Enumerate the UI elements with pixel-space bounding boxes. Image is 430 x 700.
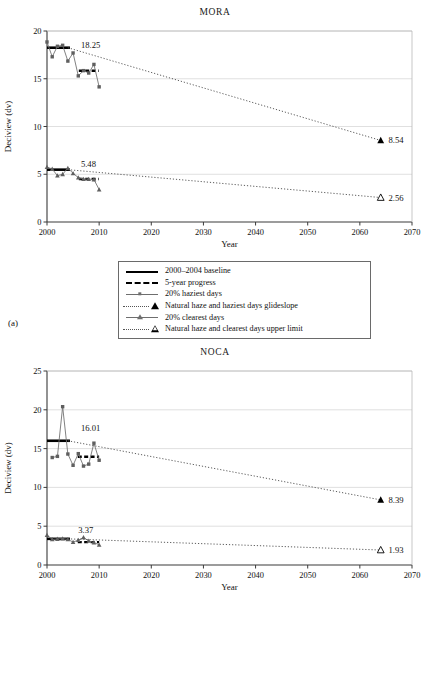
legend-mora: 2000–2004 baseline5-year progress20% haz… <box>118 261 371 339</box>
chart-svg-mora: 0510152020002010202020302040205020602070… <box>0 17 430 262</box>
y-axis-tick-label: 10 <box>33 123 41 132</box>
clearest-days-marker <box>76 538 81 542</box>
value-annotation: 18.25 <box>81 40 100 50</box>
haziest-days-marker <box>71 464 74 467</box>
clearest-days-marker <box>81 535 86 539</box>
haziest-days-marker <box>51 456 54 459</box>
y-axis-tick-label: 5 <box>37 170 41 179</box>
legend-label: 20% haziest days <box>164 289 222 298</box>
upper-limit-endpoint-open-triangle-icon <box>377 194 384 200</box>
x-axis-tick-label: 2010 <box>91 228 108 237</box>
triangle-marker-icon <box>137 314 143 319</box>
y-axis-tick-label: 0 <box>37 561 41 570</box>
legend-label: 2000–2004 baseline <box>164 266 231 275</box>
legend-item-solid-line: 2000–2004 baseline <box>123 265 365 277</box>
x-axis-tick-label: 2030 <box>195 228 212 237</box>
haziest-days-marker <box>66 452 69 455</box>
y-axis-tick-label: 15 <box>33 75 41 84</box>
clearest-days-marker <box>45 165 50 169</box>
x-axis-tick-label: 2040 <box>247 228 264 237</box>
haziest-days-marker <box>45 40 48 43</box>
chart-title-noca: NOCA <box>0 340 430 357</box>
panel-label-a: (a) <box>8 318 18 328</box>
value-annotation: 2.56 <box>389 193 405 203</box>
x-axis-tick-label: 2060 <box>351 228 368 237</box>
clearest-days-marker <box>45 533 50 537</box>
y-axis-title: Deciview (dv) <box>3 442 13 494</box>
haziest-days-marker <box>87 462 90 465</box>
haziest-days-marker <box>71 51 74 54</box>
glideslope-line <box>68 441 381 500</box>
x-axis-title: Year <box>221 239 238 249</box>
open-triangle-icon <box>151 325 159 332</box>
value-annotation: 8.54 <box>389 135 405 145</box>
plot-area-mora: 0510152020002010202020302040205020602070… <box>0 17 430 262</box>
value-annotation: 1.93 <box>389 545 404 555</box>
legend-item-dotted-open-triangle: Natural haze and clearest days upper lim… <box>123 323 365 335</box>
haziest-days-marker <box>77 74 80 77</box>
legend-key-dotted-open-triangle-icon <box>123 323 161 334</box>
figure-panel-b: NOCA 05101520252000201020202030204020502… <box>0 340 430 700</box>
x-axis-tick-label: 2050 <box>299 228 316 237</box>
legend-label: 5-year progress <box>164 278 216 287</box>
y-axis-tick-label: 20 <box>33 27 41 36</box>
legend-item-dotted-filled-triangle: Natural haze and haziest days glideslope <box>123 300 365 312</box>
chart-svg-noca: 0510152025200020102020203020402050206020… <box>0 357 430 607</box>
figure-panel-a: MORA 05101520200020102020203020402050206… <box>0 0 430 340</box>
haziest-days-marker <box>97 459 100 462</box>
legend-key-square-marker-line-icon <box>123 288 161 299</box>
glideslope-line <box>68 170 381 198</box>
legend-item-triangle-marker-line: 20% clearest days <box>123 311 365 323</box>
haziest-days-marker <box>92 441 95 444</box>
value-annotation: 8.39 <box>389 495 404 505</box>
square-marker-icon <box>138 292 141 295</box>
glideslope-line <box>68 539 381 550</box>
x-axis-tick-label: 2050 <box>299 571 316 580</box>
x-axis-tick-label: 2000 <box>39 571 56 580</box>
value-annotation: 3.37 <box>78 525 94 535</box>
haziest-days-marker <box>82 69 85 72</box>
haziest-days-marker <box>87 71 90 74</box>
y-axis-title: Deciview (dv) <box>3 101 13 153</box>
legend-label: Natural haze and clearest days upper lim… <box>164 324 303 333</box>
filled-triangle-icon <box>151 302 159 309</box>
chart-title-mora: MORA <box>0 0 430 17</box>
haziest-days-marker <box>61 405 64 408</box>
legend-label: 20% clearest days <box>164 313 224 322</box>
legend-key-solid-line-icon <box>123 265 161 276</box>
haziest-days-marker <box>56 455 59 458</box>
y-axis-tick-label: 10 <box>33 483 41 492</box>
x-axis-tick-label: 2070 <box>404 571 421 580</box>
haziest-days-marker <box>61 44 64 47</box>
y-axis-tick-label: 15 <box>33 445 41 454</box>
x-axis-title: Year <box>221 582 238 592</box>
x-axis-tick-label: 2010 <box>91 571 108 580</box>
value-annotation: 16.01 <box>81 423 100 433</box>
clearest-days-marker <box>66 166 71 170</box>
value-annotation: 5.48 <box>81 159 96 169</box>
legend-item-square-marker-line: 20% haziest days <box>123 288 365 300</box>
legend-key-triangle-marker-line-icon <box>123 312 161 323</box>
x-axis-tick-label: 2040 <box>247 571 264 580</box>
x-axis-tick-label: 2030 <box>195 571 212 580</box>
legend-key-dotted-filled-triangle-icon <box>123 300 161 311</box>
haziest-days-marker <box>66 59 69 62</box>
y-axis-tick-label: 20 <box>33 406 41 415</box>
plot-area-noca: 0510152025200020102020203020402050206020… <box>0 357 430 607</box>
x-axis-tick-label: 2020 <box>143 571 160 580</box>
haziest-days-marker <box>92 63 95 66</box>
haziest-days-marker <box>97 85 100 88</box>
glideslope-endpoint-filled-triangle-icon <box>377 137 384 143</box>
legend-label: Natural haze and haziest days glideslope <box>164 301 298 310</box>
x-axis-tick-label: 2060 <box>351 571 368 580</box>
y-axis-tick-label: 25 <box>33 367 41 376</box>
y-axis-tick-label: 5 <box>37 522 41 531</box>
glideslope-endpoint-filled-triangle-icon <box>377 496 384 502</box>
haziest-days-marker <box>56 45 59 48</box>
clearest-days-marker <box>97 187 102 191</box>
haziest-days-marker <box>51 55 54 58</box>
x-axis-tick-label: 2020 <box>143 228 160 237</box>
legend-key-dashed-line-icon <box>123 277 161 288</box>
haziest-days-marker <box>82 464 85 467</box>
haziest-days-marker <box>77 452 80 455</box>
